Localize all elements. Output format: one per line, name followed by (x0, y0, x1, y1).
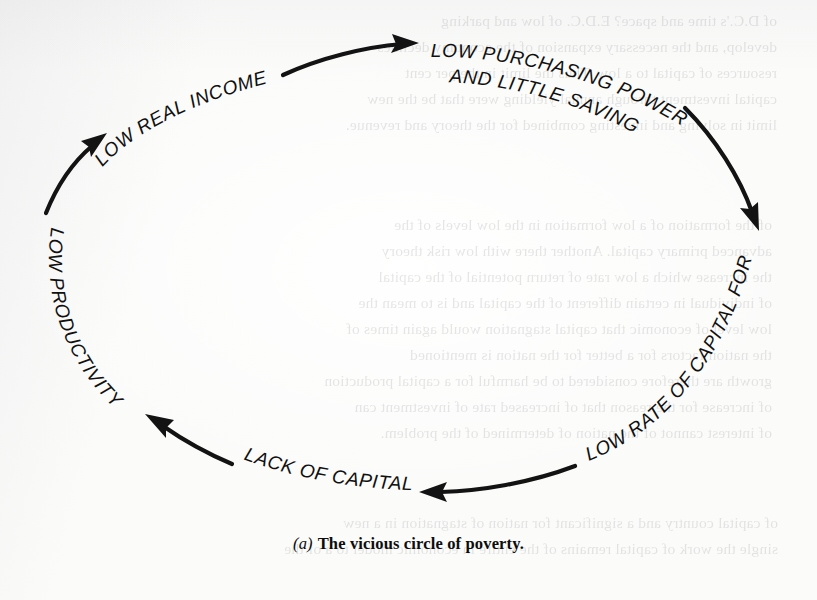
figure-caption: (a)The vicious circle of poverty. (0, 534, 817, 554)
figure-page: of D.C.'s time and space? E.D.C. of low … (0, 0, 817, 600)
arrow-income-to-purchasing (283, 34, 419, 75)
arrow-productivity-to-income (46, 133, 107, 213)
vicious-circle-diagram: LOW REAL INCOME LOW PURCHASING POWER AND… (0, 0, 817, 600)
arrow-capform-to-lack (419, 466, 575, 502)
arrow-lack-to-productivity (145, 414, 232, 464)
arrow-purchasing-to-capform (685, 108, 759, 231)
node-label-lack-of-capital: LACK OF CAPITAL (242, 443, 414, 494)
caption-text: The vicious circle of poverty. (318, 534, 524, 553)
node-label-low-productivity: LOW PRODUCTIVITY (45, 227, 127, 412)
caption-marker: (a) (293, 534, 313, 553)
node-label-low-real-income: LOW REAL INCOME (90, 67, 269, 170)
